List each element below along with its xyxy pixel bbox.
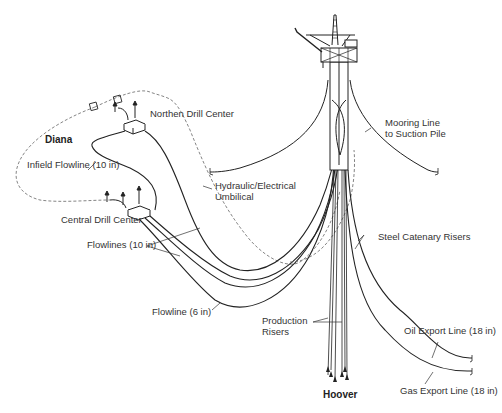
- mooring-line-left: [210, 80, 328, 172]
- production-risers: [328, 170, 347, 380]
- umbilical-label-line2: Umbilical: [215, 192, 254, 203]
- gas-export-line: [345, 170, 472, 371]
- oil-export-line-label: Oil Export Line (18 in): [404, 326, 496, 337]
- wellhead-arrows-icon: [326, 366, 349, 382]
- field-diagram: [0, 0, 502, 413]
- steel-catenary-risers-label: Steel Catenary Risers: [378, 232, 470, 243]
- gas-export-line-label: Gas Export Line (18 in): [400, 386, 498, 397]
- flowline-6in-label: Flowline (6 in): [152, 307, 211, 318]
- mooring-line-label-line2: to Suction Pile: [385, 129, 446, 140]
- template-structure-icon: [89, 95, 122, 111]
- infield-flowline-label: Infield Flowline (10 in): [27, 160, 119, 171]
- leader-lines: [88, 128, 438, 384]
- northern-drill-center-label: Northen Drill Center: [150, 109, 234, 120]
- central-drill-center-label: Central Drill Center: [61, 215, 142, 226]
- hoover-field-label: Hoover: [323, 389, 357, 401]
- flowlines-10in-label: Flowlines (10 in): [87, 240, 156, 251]
- diana-boundary-left-dashed: [16, 107, 110, 201]
- flowline-10in-b: [150, 140, 341, 280]
- northern-drill-center-manifold-icon: [113, 101, 145, 134]
- production-risers-label-line2: Risers: [262, 327, 289, 338]
- diana-field-label: Diana: [45, 134, 72, 146]
- flowline-10in-a: [145, 140, 338, 287]
